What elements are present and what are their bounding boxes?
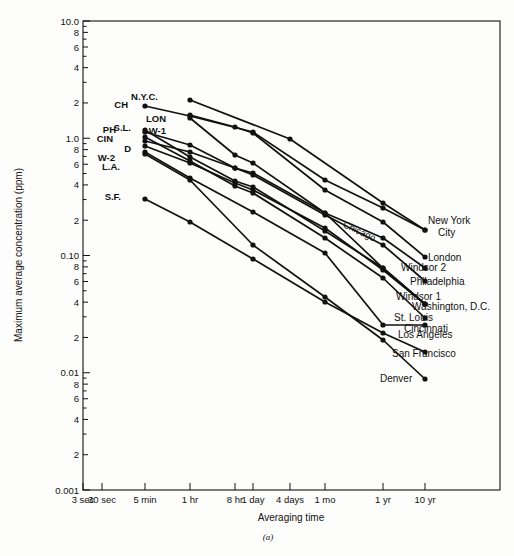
left-label-l-a-: L.A. <box>102 161 120 172</box>
right-label-san-francisco: San Francisco <box>392 348 456 359</box>
y-tick-label: 10.0 <box>61 16 80 27</box>
figure-caption: (a) <box>263 532 274 542</box>
left-label-cin: CIN <box>97 133 114 144</box>
y-tick-label: 8 <box>74 261 79 272</box>
y-tick-label: 6 <box>74 276 79 287</box>
y-axis-ticks <box>83 21 90 490</box>
data-point-denver-5 <box>422 376 427 381</box>
data-point-san-francisco-2 <box>250 256 255 261</box>
data-point-philadelphia-5 <box>380 242 385 247</box>
data-point-denver-2 <box>250 242 255 247</box>
left-label-s-f-: S.F. <box>105 191 121 202</box>
data-point-san-francisco-4 <box>380 330 385 335</box>
data-point-new-york-city-0 <box>187 97 192 102</box>
data-point-philadelphia-3 <box>250 172 255 177</box>
y-axis-title: Maximum average concentration (ppm) <box>13 168 24 342</box>
rotated-inline-labels: Chicago <box>341 218 377 243</box>
x-tick-label: 1 day <box>241 494 264 505</box>
series-markers-group <box>142 97 427 381</box>
y-tick-label: 4 <box>74 62 79 73</box>
y-tick-label: 4 <box>74 297 79 308</box>
data-point-san-francisco-0 <box>142 196 147 201</box>
series-line-chicago <box>145 106 425 230</box>
data-point-new-york-city-1 <box>287 136 292 141</box>
x-tick-label: 4 days <box>276 494 304 505</box>
data-point-windsor-2-1 <box>187 149 192 154</box>
data-point-cincinnati-3 <box>250 190 255 195</box>
y-tick-label: 0.10 <box>61 250 80 261</box>
data-point-cincinnati-1 <box>187 158 192 163</box>
x-tick-label: 5 min <box>133 494 156 505</box>
data-point-london-3 <box>322 187 327 192</box>
data-point-cincinnati-4 <box>322 235 327 240</box>
data-point-philadelphia-1 <box>187 142 192 147</box>
data-point-los-angeles-3 <box>322 250 327 255</box>
data-point-washington-d-c--0 <box>142 143 147 148</box>
left-label-ch: CH <box>114 99 128 110</box>
y-tick-label: 8 <box>74 144 79 155</box>
x-tick-label: 30 sec <box>88 494 116 505</box>
data-point-los-angeles-4 <box>380 322 385 327</box>
x-tick-label: 1 yr <box>375 494 391 505</box>
concentration-vs-averaging-time-chart: 10.01.00.100.010.0012468246824682468 3 s… <box>0 0 514 556</box>
data-point-chicago-4 <box>380 205 385 210</box>
y-tick-label: 8 <box>74 27 79 38</box>
y-tick-label: 8 <box>74 379 79 390</box>
data-point-cincinnati-2 <box>232 183 237 188</box>
y-tick-label: 2 <box>74 449 79 460</box>
data-point-chicago-3 <box>322 177 327 182</box>
left-label-n-y-c-: N.Y.C. <box>131 91 158 102</box>
data-point-st-louis-3 <box>250 184 255 189</box>
right-label-denver: Denver <box>380 373 413 384</box>
data-point-windsor-1-0 <box>187 115 192 120</box>
series-line-london <box>190 115 425 257</box>
data-point-los-angeles-2 <box>250 209 255 214</box>
data-point-st-louis-0 <box>142 127 147 132</box>
right-label-city: City <box>438 227 455 238</box>
data-point-st-louis-2 <box>232 178 237 183</box>
figure-container: 10.01.00.100.010.0012468246824682468 3 s… <box>0 0 514 556</box>
data-point-st-louis-5 <box>380 265 385 270</box>
data-point-london-2 <box>250 130 255 135</box>
data-point-windsor-1-1 <box>232 152 237 157</box>
data-point-london-4 <box>380 219 385 224</box>
x-tick-label: 1 mo <box>314 494 335 505</box>
data-point-philadelphia-2 <box>232 165 237 170</box>
right-city-labels: New YorkCityLondonWindsor 2PhiladelphiaW… <box>380 215 490 384</box>
x-axis-tick-labels: 3 sec30 sec5 min1 hr8 hr1 day4 days1 mo1… <box>72 494 436 505</box>
series-line-cincinnati <box>145 137 425 318</box>
data-point-new-york-city-2 <box>380 200 385 205</box>
data-point-windsor-2-5 <box>380 235 385 240</box>
y-tick-label: 4 <box>74 179 79 190</box>
data-point-san-francisco-3 <box>322 299 327 304</box>
data-point-denver-4 <box>380 337 385 342</box>
x-axis-ticks <box>83 483 425 490</box>
y-tick-label: 2 <box>74 332 79 343</box>
left-label-lon: LON <box>146 113 166 124</box>
data-point-denver-0 <box>142 151 147 156</box>
data-point-cincinnati-0 <box>142 134 147 139</box>
right-label-windsor-2: Windsor 2 <box>401 262 446 273</box>
data-point-chicago-5 <box>422 227 427 232</box>
left-label-s-l-: S.L. <box>114 122 131 133</box>
right-label-new-york: New York <box>428 215 471 226</box>
x-axis-title: Averaging time <box>258 512 325 523</box>
data-point-cincinnati-5 <box>380 275 385 280</box>
right-label-philadelphia: Philadelphia <box>410 276 465 287</box>
y-tick-label: 6 <box>74 393 79 404</box>
y-tick-label: 4 <box>74 414 79 425</box>
right-label-los-angeles: Los Angeles <box>398 329 453 340</box>
data-point-windsor-1-3 <box>322 210 327 215</box>
y-tick-label: 1.0 <box>66 133 79 144</box>
x-tick-label: 10 yr <box>414 494 435 505</box>
inline-label-chicago: Chicago <box>341 218 377 243</box>
y-tick-label: 6 <box>74 42 79 53</box>
data-point-st-louis-4 <box>322 228 327 233</box>
x-tick-label: 1 hr <box>182 494 198 505</box>
data-point-denver-3 <box>322 294 327 299</box>
data-point-san-francisco-1 <box>187 219 192 224</box>
right-label-washington,-d.c.: Washington, D.C. <box>412 301 490 312</box>
data-point-chicago-0 <box>142 103 147 108</box>
data-point-windsor-1-2 <box>250 160 255 165</box>
right-label-st.-louis: St. Louis <box>394 312 433 323</box>
